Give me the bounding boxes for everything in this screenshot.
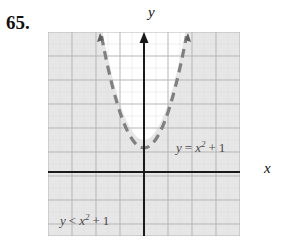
problem-number: 65. [6, 12, 30, 34]
curve-eq-lhs: y [176, 140, 182, 155]
curve-equation-label: y=x2+1 [176, 139, 225, 156]
curve-eq-plus: + [208, 140, 215, 155]
region-ineq-lhs: y [60, 213, 66, 228]
region-ineq-rel: < [69, 213, 76, 228]
curve-eq-const: 1 [219, 140, 226, 155]
curve-eq-rel: = [185, 140, 192, 155]
region-inequality-label: y<x2+1 [60, 212, 109, 229]
region-ineq-exp: 2 [85, 212, 90, 222]
region-ineq-plus: + [92, 213, 99, 228]
region-ineq-const: 1 [103, 213, 110, 228]
figure-container: 65. [0, 0, 283, 248]
y-axis-label: y [148, 4, 155, 21]
x-axis-label: x [264, 160, 271, 177]
curve-eq-exp: 2 [201, 139, 206, 149]
coordinate-plane [48, 32, 240, 236]
